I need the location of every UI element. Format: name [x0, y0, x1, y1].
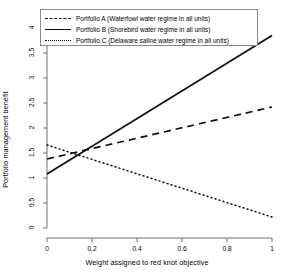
y-tick-label: 4 — [28, 17, 35, 39]
x-tick-label: 1 — [270, 245, 274, 252]
y-tick-marks — [43, 28, 47, 228]
axes — [43, 28, 272, 242]
legend-label: Portfolio A (Waterfowl water regime in a… — [76, 15, 210, 22]
x-tick-label: 0 — [45, 245, 49, 252]
chart-figure: 00.511.522.533.54 00.20.40.60.81 Weight … — [0, 0, 294, 279]
legend-label: Portfolio B (Shorebird water regime in a… — [76, 26, 210, 33]
y-tick-label: 2.5 — [28, 92, 35, 114]
x-tick-label: 0.6 — [177, 245, 186, 252]
legend-item: Portfolio A (Waterfowl water regime in a… — [45, 13, 253, 24]
y-tick-label: 3.5 — [28, 42, 35, 64]
series-line — [47, 145, 272, 217]
series-line — [47, 36, 272, 175]
y-tick-label: 0 — [28, 217, 35, 239]
y-tick-label: 0.5 — [28, 192, 35, 214]
data-series-group — [47, 36, 272, 218]
chart-legend: Portfolio A (Waterfowl water regime in a… — [40, 9, 258, 46]
y-axis-title: Portfolio management benefit — [0, 0, 12, 279]
series-line — [47, 107, 272, 159]
y-tick-label: 2 — [28, 117, 35, 139]
legend-swatch-dotted-icon — [45, 36, 71, 46]
x-tick-label: 0.8 — [222, 245, 231, 252]
x-tick-label: 0.4 — [132, 245, 141, 252]
x-tick-label: 0.2 — [87, 245, 96, 252]
x-axis-title: Weight assigned to red knot objective — [0, 258, 294, 267]
legend-item: Portfolio C (Delaware saline water regim… — [45, 35, 253, 46]
y-tick-label: 1.5 — [28, 142, 35, 164]
x-tick-marks — [47, 238, 272, 242]
y-tick-label: 3 — [28, 67, 35, 89]
legend-swatch-dashed-icon — [45, 14, 71, 24]
legend-label: Portfolio C (Delaware saline water regim… — [76, 37, 229, 44]
legend-item: Portfolio B (Shorebird water regime in a… — [45, 24, 253, 35]
y-tick-label: 1 — [28, 167, 35, 189]
legend-swatch-solid-icon — [45, 25, 71, 35]
